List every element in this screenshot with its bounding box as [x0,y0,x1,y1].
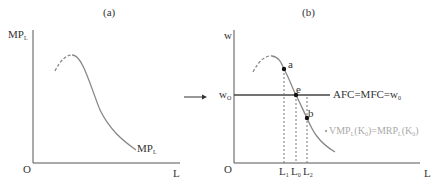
y-label-sub: L [24,35,28,41]
y-label-main: MP [8,28,24,40]
vmp-p4: (K [402,125,413,136]
wage-line-sub: 0 [398,95,401,101]
vmp-p2: (K [354,125,365,136]
tick-l2: L2 [303,166,313,178]
wage-level-label: wO [219,89,231,101]
panel-a-mp-curve-rising [55,55,72,71]
wage-line-main: AFC=MFC=w [333,88,398,100]
tick-l2-main: L [303,165,310,177]
panel-b-vmp-curve [272,56,335,152]
tick-l2-sub: 2 [310,172,313,178]
panel-b-origin: O [224,164,232,175]
curve-label-sub: L [153,149,157,155]
vmp-p1: VMP [329,125,351,136]
tick-l1-main: L [279,165,286,177]
tick-l0-sub: 0 [298,172,301,178]
panel-b-title: (b) [302,7,315,18]
tick-l1: L1 [279,166,289,178]
tick-l0: L0 [291,166,301,178]
point-b-label: b [308,108,314,119]
panel-a-mp-curve [72,55,136,150]
point-a [282,67,286,71]
arrow-head-icon [202,95,207,100]
wage-line-label: AFC=MFC=w0 [333,89,401,101]
curve-label-marker [325,130,327,132]
vmp-p3: )=MRP [368,125,398,136]
panel-a-title: (a) [103,7,115,18]
panel-b-x-axis-label: L [424,168,431,179]
panel-b-y-axis-label: w [224,30,232,41]
wage-main: w [219,88,227,100]
tick-l0-main: L [291,165,298,177]
panel-b-vmp-curve-rising [253,56,272,72]
vmp-p5: ) [415,125,418,136]
panel-a-x-axis-label: L [173,168,180,179]
tick-l1-sub: 1 [286,172,289,178]
curve-label-main: MP [137,142,153,154]
vmp-curve-label: VMPL(K0)=MRPL(K0) [329,126,419,137]
panel-a-y-axis-label: MPL [8,29,28,41]
point-e-label: e [296,84,301,95]
wage-sub: O [227,95,231,101]
panel-a-curve-label: MPL [137,143,157,155]
point-a-label: a [288,59,293,70]
panel-a-origin: O [23,164,31,175]
